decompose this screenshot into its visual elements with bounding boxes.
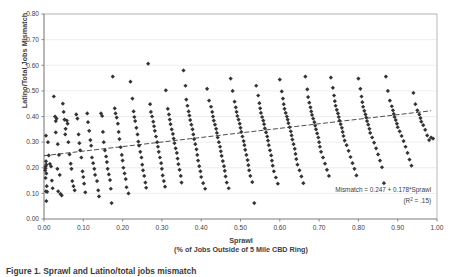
svg-text:0.70: 0.70 (26, 36, 39, 43)
svg-text:0.80: 0.80 (352, 224, 365, 231)
svg-text:0.00: 0.00 (26, 215, 39, 222)
gridlines (44, 14, 437, 193)
svg-text:1.00: 1.00 (431, 224, 444, 231)
svg-text:0.60: 0.60 (273, 224, 286, 231)
x-axis-subtitle: (% of Jobs Outside of 5 Mile CBD Ring) (44, 245, 438, 254)
svg-text:0.40: 0.40 (195, 224, 208, 231)
svg-text:0.30: 0.30 (155, 224, 168, 231)
x-axis-ticks: 0.000.100.200.300.400.500.600.700.800.90… (38, 219, 444, 231)
svg-text:Mismatch = 0.247 + 0.178*Spraw: Mismatch = 0.247 + 0.178*Sprawl (335, 186, 431, 194)
svg-text:0.20: 0.20 (26, 164, 39, 171)
svg-text:0.80: 0.80 (26, 10, 39, 17)
svg-text:0.60: 0.60 (26, 62, 39, 69)
svg-text:(R2 = .15): (R2 = .15) (403, 197, 431, 205)
svg-text:0.30: 0.30 (26, 138, 39, 145)
y-axis-ticks: 0.000.100.200.300.400.500.600.700.80 (26, 10, 44, 222)
svg-text:0.20: 0.20 (116, 224, 129, 231)
figure-caption: Figure 1. Sprawl and Latino/total jobs m… (6, 266, 196, 276)
svg-text:0.50: 0.50 (26, 87, 39, 94)
svg-text:0.70: 0.70 (313, 224, 326, 231)
x-axis-title: Sprawl (44, 236, 438, 245)
figure-container: Latino/Total Jobs Mismatch 0.000.100.200… (0, 0, 455, 277)
regression-annotation: Mismatch = 0.247 + 0.178*Sprawl(R2 = .15… (335, 186, 431, 205)
svg-text:0.50: 0.50 (234, 224, 247, 231)
svg-text:0.00: 0.00 (38, 224, 51, 231)
svg-text:0.10: 0.10 (77, 224, 90, 231)
svg-text:0.40: 0.40 (26, 113, 39, 120)
svg-text:0.10: 0.10 (26, 190, 39, 197)
svg-text:0.90: 0.90 (391, 224, 404, 231)
